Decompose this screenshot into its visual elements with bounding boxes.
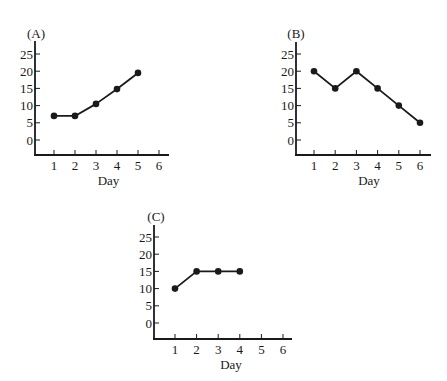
y-tick-label: 0 <box>27 133 34 148</box>
data-point <box>172 285 179 292</box>
x-tick-label: 1 <box>172 342 179 357</box>
y-tick-label: 25 <box>139 230 152 245</box>
x-tick-label: 5 <box>258 342 265 357</box>
data-point <box>215 268 222 275</box>
x-tick-label: 4 <box>114 158 121 173</box>
x-axis-label: Day <box>358 173 380 188</box>
x-tick-label: 5 <box>396 158 403 173</box>
y-tick-label: 5 <box>146 298 153 313</box>
y-tick-label: 0 <box>288 133 295 148</box>
data-point <box>332 85 339 92</box>
x-tick-label: 4 <box>374 158 381 173</box>
x-tick-label: 6 <box>417 158 424 173</box>
data-point <box>114 86 121 93</box>
y-tick-label: 5 <box>27 115 34 130</box>
data-line <box>175 271 240 288</box>
data-line <box>314 71 420 123</box>
data-point <box>311 68 318 75</box>
x-tick-label: 3 <box>353 158 360 173</box>
x-tick-label: 3 <box>93 158 100 173</box>
data-point <box>417 120 424 127</box>
data-point <box>237 268 244 275</box>
y-tick-label: 5 <box>288 115 295 130</box>
y-tick-label: 15 <box>281 81 294 96</box>
x-tick-label: 2 <box>332 158 339 173</box>
data-point <box>51 113 58 120</box>
y-tick-label: 0 <box>146 316 153 331</box>
chart-panel-a: (A)0510152025123456Day <box>20 26 169 188</box>
x-axis-label: Day <box>98 173 120 188</box>
y-tick-label: 25 <box>281 47 294 62</box>
data-point <box>396 102 403 109</box>
panel-label: (C) <box>147 209 164 224</box>
y-tick-label: 20 <box>139 247 152 262</box>
x-tick-label: 1 <box>311 158 318 173</box>
x-tick-label: 5 <box>135 158 142 173</box>
figure-canvas: (A)0510152025123456Day (B)05101520251234… <box>0 0 447 381</box>
y-tick-label: 20 <box>281 64 294 79</box>
data-point <box>353 68 360 75</box>
data-point <box>135 70 142 77</box>
panel-label: (B) <box>287 26 304 41</box>
panel-label: (A) <box>27 26 45 41</box>
data-point <box>72 113 79 120</box>
x-tick-label: 6 <box>156 158 163 173</box>
y-tick-label: 10 <box>281 98 294 113</box>
y-tick-label: 20 <box>20 64 33 79</box>
y-tick-label: 15 <box>20 81 33 96</box>
chart-panel-b: (B)0510152025123456Day <box>281 26 431 188</box>
x-tick-label: 3 <box>215 342 222 357</box>
y-tick-label: 25 <box>20 47 33 62</box>
x-tick-label: 2 <box>193 342 200 357</box>
y-tick-label: 10 <box>20 98 33 113</box>
data-point <box>374 85 381 92</box>
x-tick-label: 6 <box>280 342 287 357</box>
data-point <box>93 101 100 108</box>
y-tick-label: 10 <box>139 281 152 296</box>
y-tick-label: 15 <box>139 264 152 279</box>
line-charts-figure: (A)0510152025123456Day (B)05101520251234… <box>0 0 447 381</box>
x-tick-label: 2 <box>72 158 79 173</box>
data-line <box>54 73 138 116</box>
x-axis-label: Day <box>220 357 242 372</box>
chart-panel-c: (C)0510152025123456Day <box>139 209 292 372</box>
data-point <box>193 268 200 275</box>
x-tick-label: 1 <box>51 158 58 173</box>
x-tick-label: 4 <box>237 342 244 357</box>
